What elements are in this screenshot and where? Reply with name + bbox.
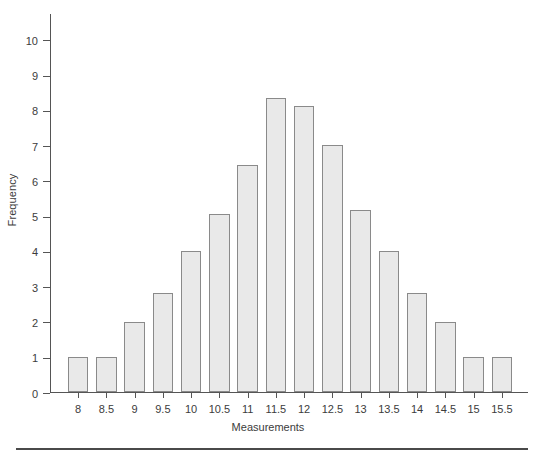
y-axis-tick: 3 [43,287,50,288]
x-axis-tick-label: 12.5 [322,403,343,415]
x-axis-tick-label: 11.5 [266,403,287,415]
x-axis-tick [445,393,446,398]
y-axis-tick-label: 8 [32,105,38,117]
x-axis-tick-label: 8 [75,403,81,415]
y-axis-tick-label: 1 [32,352,38,364]
plot-area: 012345678910 88.599.51010.51111.51212.51… [50,14,528,393]
y-axis-tick: 8 [43,111,50,112]
y-axis-tick-label: 3 [32,282,38,294]
x-axis-tick [389,393,390,398]
histogram-bar [266,98,286,392]
x-axis-tick [502,393,503,398]
x-axis-tick [276,393,277,398]
x-axis-tick-label: 15.5 [491,403,512,415]
y-axis-tick: 6 [43,181,50,182]
histogram-bar [294,106,314,392]
x-axis-tick-label: 10.5 [209,403,230,415]
x-axis-tick [474,393,475,398]
x-axis-tick-label: 9 [132,403,138,415]
y-axis-tick: 4 [43,252,50,253]
bottom-divider [16,448,528,450]
x-axis-tick [248,393,249,398]
histogram-bar [463,357,483,392]
y-axis-title-text: Frequency [6,174,18,227]
x-axis-tick [332,393,333,398]
histogram-bar [68,357,88,392]
x-axis-line [50,392,528,393]
histogram-bar [96,357,116,392]
y-axis-tick: 2 [43,322,50,323]
histogram-bar [153,293,173,392]
y-axis-tick-label: 6 [32,176,38,188]
y-axis-tick: 1 [43,358,50,359]
x-axis-tick-label: 15 [468,403,480,415]
x-axis-tick [78,393,79,398]
x-axis-tick [163,393,164,398]
x-axis-tick [361,393,362,398]
histogram-bar [350,210,370,392]
histogram-bar [379,251,399,392]
x-axis-tick [191,393,192,398]
histogram-bar [209,214,229,392]
x-axis-title-text: Measurements [232,421,305,433]
y-axis-tick: 5 [43,217,50,218]
histogram-bar [124,322,144,393]
x-axis-tick [417,393,418,398]
y-axis-tick: 0 [43,393,50,394]
x-axis-tick-label: 13 [355,403,367,415]
x-axis-tick-label: 13.5 [378,403,399,415]
y-axis-tick: 9 [43,76,50,77]
x-axis-tick-label: 14 [411,403,423,415]
y-axis-tick: 10 [43,40,50,41]
x-axis-tick-label: 14.5 [435,403,456,415]
y-axis-line [50,14,51,393]
y-axis-tick-label: 7 [32,141,38,153]
histogram-bar [492,357,512,392]
y-axis-title: Frequency [2,0,22,400]
y-axis-tick-label: 4 [32,246,38,258]
x-axis-tick [106,393,107,398]
x-axis-tick-label: 12 [298,403,310,415]
x-axis-tick-label: 11 [242,403,253,415]
x-axis-tick-label: 9.5 [155,403,170,415]
histogram-bar [435,322,455,393]
x-axis-tick-label: 8.5 [99,403,114,415]
histogram-bar [237,165,257,392]
histogram-bar [407,293,427,392]
x-axis-tick-label: 10 [185,403,197,415]
x-axis-tick [304,393,305,398]
y-axis-tick-label: 5 [32,211,38,223]
x-axis-tick [135,393,136,398]
y-axis-tick-label: 10 [26,35,38,47]
x-axis-title: Measurements [0,421,536,433]
histogram-figure: Frequency 012345678910 88.599.51010.5111… [0,0,536,461]
y-axis-tick-label: 0 [32,388,38,400]
y-axis-tick-label: 9 [32,70,38,82]
histogram-bar [322,145,342,392]
y-axis-tick-label: 2 [32,317,38,329]
histogram-bar [181,251,201,392]
x-axis-tick [219,393,220,398]
y-axis-tick: 7 [43,146,50,147]
